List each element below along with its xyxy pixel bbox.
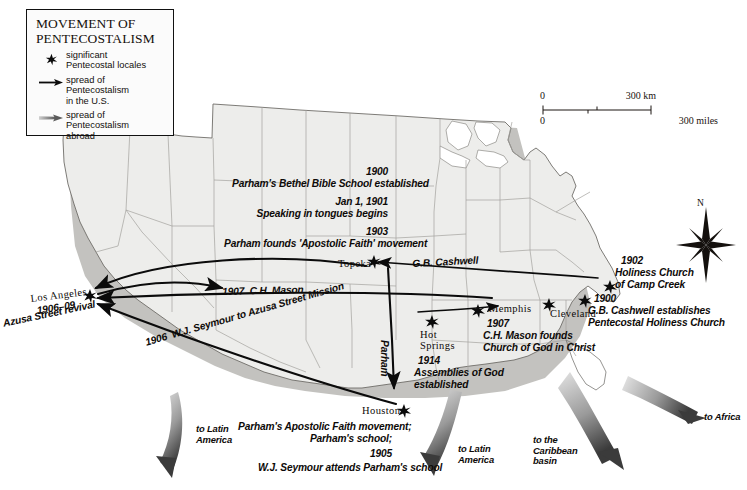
legend-item-abroad-spread-label: spread of Pentecostalism abroad [66, 110, 129, 141]
city-label-memphis: Memphis [489, 303, 531, 315]
legend-title: MOVEMENT OF PENTECOSTALISM [27, 10, 173, 46]
annotation-houston-text: Parham's Apostolic Faith movement; Parha… [238, 421, 392, 444]
compass-north-label: N [697, 198, 704, 208]
scale-rule-spacer [540, 101, 660, 112]
scale-km-max: 300 km [626, 90, 656, 101]
city-label-houston: Houston [362, 405, 400, 417]
annotation-topeka-1901-text: Speaking in tongues begins [200, 208, 388, 220]
legend: MOVEMENT OF PENTECOSTALISM significant P… [26, 9, 174, 136]
annotation-topeka-1903-year: 1903 [248, 226, 388, 238]
star-marker-icon [36, 50, 66, 66]
scale-bar: 0 300 km 0 300 miles [540, 90, 660, 126]
annotation-houston-seymour: W.J. Seymour attends Parham's school [258, 462, 442, 474]
legend-item-us-spread: spread of Pentecostalism in the U.S. [27, 75, 173, 106]
annotation-cashwell-year: 1900 [594, 293, 616, 305]
annotation-houston-year: 1905 [278, 448, 392, 460]
annotation-camp-creek-text: Holiness Church of Camp Creek [615, 267, 694, 290]
scale-km-zero: 0 [540, 90, 545, 101]
abroad-label-latin-america-west: to Latin America [196, 424, 232, 445]
city-label-hot-springs: Hot Springs [420, 329, 455, 351]
annotation-topeka-1901-year: Jan 1, 1901 [240, 196, 388, 208]
abroad-label-africa: to Africa [704, 412, 740, 423]
abroad-label-caribbean: to the Caribbean basin [533, 435, 578, 467]
annotation-camp-creek-year: 1902 [621, 255, 643, 267]
abroad-label-latin-america-gulf: to Latin America [458, 444, 494, 465]
pentecostalism-movement-map: MOVEMENT OF PENTECOSTALISM significant P… [0, 0, 747, 490]
scale-miles-zero: 0 [540, 115, 545, 126]
city-label-topeka: Topeka [338, 258, 371, 270]
annotation-cashwell-text: G.B. Cashwell establishes Pentecostal Ho… [588, 305, 725, 328]
scale-miles-max: 300 miles [679, 115, 718, 126]
annotation-topeka-1900-year: 1900 [248, 166, 388, 178]
legend-item-locales: significant Pentecostal locales [27, 50, 173, 71]
legend-item-us-spread-label: spread of Pentecostalism in the U.S. [66, 75, 129, 106]
legend-item-locales-label: significant Pentecostal locales [66, 50, 146, 71]
black-arrow-icon [36, 75, 66, 87]
annotation-memphis-text: C.H. Mason founds Church of God in Chris… [483, 330, 595, 353]
legend-item-abroad-spread: spread of Pentecostalism abroad [27, 110, 173, 141]
gray-arrow-icon [36, 110, 66, 123]
annotation-topeka-1900-text: Parham's Bethel Bible School established [232, 178, 429, 190]
annotation-hot-springs-text: Assemblies of God established [414, 367, 504, 390]
scale-km-labels: 0 300 km [540, 90, 660, 101]
annotation-memphis-year: 1907 [487, 318, 509, 330]
annotation-hot-springs-year: 1914 [418, 355, 440, 367]
scale-miles-labels: 0 300 miles [540, 115, 660, 126]
annotation-topeka-1903-text: Parham founds 'Apostolic Faith' movement [224, 238, 427, 250]
route-label-parham: Parham [378, 340, 390, 376]
